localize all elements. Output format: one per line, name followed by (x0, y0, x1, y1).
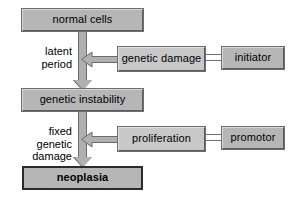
connector-promotor (204, 134, 223, 141)
node-genetic-damage-label: genetic damage (122, 53, 202, 65)
node-initiator[interactable]: initiator (222, 47, 284, 69)
label-latent-period: latent period (26, 45, 72, 70)
node-normal-cells-label: normal cells (53, 14, 113, 26)
node-proliferation-label: proliferation (132, 133, 191, 145)
node-neoplasia-label: neoplasia (57, 172, 109, 184)
branch-arrow-proliferation (80, 130, 120, 149)
connector-initiator (204, 54, 223, 61)
node-neoplasia[interactable]: neoplasia (22, 166, 143, 190)
node-genetic-instability[interactable]: genetic instability (22, 89, 143, 111)
node-genetic-instability-label: genetic instability (40, 94, 126, 106)
node-promotor[interactable]: promotor (222, 127, 284, 149)
node-normal-cells[interactable]: normal cells (22, 9, 143, 31)
branch-arrow-genetic-damage (80, 50, 120, 69)
diagram-canvas: normal cells latent period genetic damag… (0, 0, 293, 201)
node-promotor-label: promotor (231, 132, 276, 144)
node-initiator-label: initiator (235, 52, 271, 64)
node-genetic-damage[interactable]: genetic damage (118, 47, 205, 71)
node-proliferation[interactable]: proliferation (118, 127, 205, 151)
label-fixed-genetic-damage: fixed genetic damage (11, 125, 72, 163)
